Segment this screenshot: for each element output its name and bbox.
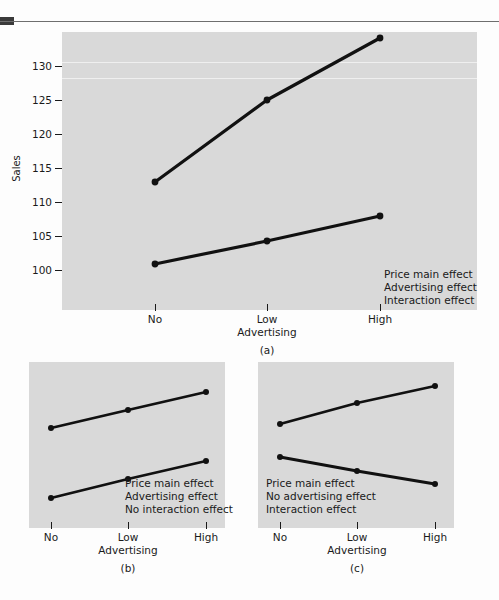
data-point <box>277 421 283 427</box>
data-point <box>354 400 360 406</box>
annotation-block-c: Price main effect No advertising effect … <box>266 477 376 516</box>
data-point <box>48 425 54 431</box>
panel-b: Price main effect Advertising effect No … <box>0 0 250 600</box>
x-tick-mark <box>435 522 436 529</box>
annotation-line: No advertising effect <box>266 490 376 503</box>
data-point <box>125 407 131 413</box>
x-tick-label: Low <box>327 531 387 543</box>
panel-c: Price main effect No advertising effect … <box>249 0 499 600</box>
data-point <box>48 495 54 501</box>
x-tick-label: Low <box>98 531 158 543</box>
data-point <box>432 481 438 487</box>
panel-caption-b: (b) <box>68 562 188 574</box>
annotation-line: No interaction effect <box>125 503 233 516</box>
data-point <box>203 458 209 464</box>
x-tick-mark <box>357 522 358 529</box>
annotation-block-b: Price main effect Advertising effect No … <box>125 477 233 516</box>
annotation-line: Interaction effect <box>266 503 376 516</box>
data-point <box>432 383 438 389</box>
x-tick-label: No <box>250 531 310 543</box>
data-point <box>203 389 209 395</box>
annotation-line: Advertising effect <box>125 490 233 503</box>
x-tick-mark <box>280 522 281 529</box>
annotation-line: Price main effect <box>266 477 376 490</box>
x-tick-label: No <box>21 531 81 543</box>
figure-page: Price main effect Advertising effect Int… <box>0 0 499 600</box>
x-tick-label: High <box>176 531 236 543</box>
panel-caption-c: (c) <box>297 562 417 574</box>
data-point <box>354 468 360 474</box>
plot-area-c: Price main effect No advertising effect … <box>258 362 454 528</box>
x-axis-title-c: Advertising <box>297 544 417 556</box>
x-tick-mark <box>128 522 129 529</box>
x-tick-label: High <box>405 531 465 543</box>
plot-area-b: Price main effect Advertising effect No … <box>29 362 225 528</box>
x-axis-title-b: Advertising <box>68 544 188 556</box>
x-tick-mark <box>51 522 52 529</box>
data-point <box>277 454 283 460</box>
x-tick-mark <box>206 522 207 529</box>
annotation-line: Price main effect <box>125 477 233 490</box>
